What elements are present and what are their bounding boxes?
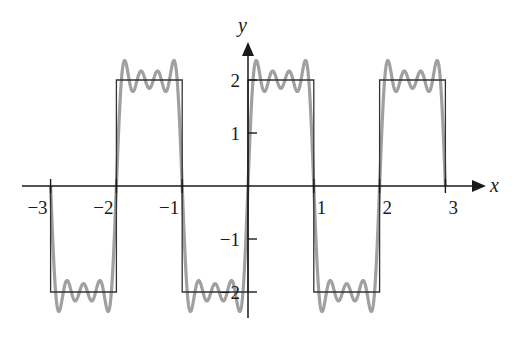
y-tick-label: 1 [231, 123, 241, 144]
x-axis-label: x [489, 174, 499, 196]
x-tick-label: 1 [317, 197, 327, 218]
axes: x y [22, 14, 499, 318]
y-axis-arrow-icon [242, 42, 254, 56]
x-tick-label: −3 [27, 197, 47, 218]
x-tick-label: −1 [159, 197, 179, 218]
x-tick-label: 3 [448, 197, 458, 218]
x-tick-label: −2 [93, 197, 113, 218]
y-tick-label: 2 [231, 70, 241, 91]
x-tick-label: 2 [383, 197, 393, 218]
x-axis-arrow-icon [472, 180, 486, 192]
y-axis-label: y [236, 14, 247, 37]
y-tick-label: −1 [220, 229, 240, 250]
y-tick-label: −2 [220, 282, 240, 303]
x-ticks: −3−2−1123 [27, 179, 458, 218]
fourier-square-wave-chart: x y −3−2−1123 21−1−2 [0, 0, 526, 340]
